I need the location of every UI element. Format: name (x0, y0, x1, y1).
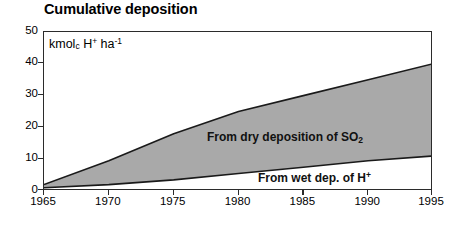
y-tick-label-20: 20 (4, 120, 38, 132)
area-dry-deposition (44, 64, 432, 188)
x-tick-label-1990: 1990 (337, 194, 397, 208)
series-label-wet-deposition: From wet dep. of H+ (258, 170, 371, 185)
x-tick-label-1980: 1980 (208, 194, 268, 208)
x-tick-label-1970: 1970 (78, 194, 138, 208)
y-tick-label-10: 10 (4, 152, 38, 164)
unit-mid-2: ha (97, 37, 114, 51)
unit-prefix: kmol (49, 37, 75, 51)
plot-svg (44, 32, 432, 190)
chart-figure: Cumulative deposition 50 40 30 20 10 0 k… (0, 0, 458, 226)
x-tick-label-1985: 1985 (272, 194, 332, 208)
y-axis: 50 40 30 20 10 0 (0, 0, 38, 226)
unit-sup-minus-one: -1 (115, 36, 123, 46)
y-tick-label-50: 50 (4, 25, 38, 37)
series-label-wet-superscript: + (366, 170, 371, 180)
y-tick-label-40: 40 (4, 56, 38, 68)
series-label-dry-subscript: 2 (358, 135, 363, 145)
chart-title: Cumulative deposition (44, 1, 197, 17)
y-axis-unit-label: kmolc H+ ha-1 (49, 34, 122, 53)
x-tick-label-1965: 1965 (13, 194, 73, 208)
unit-mid: H (80, 37, 93, 51)
x-tick-label-1995: 1995 (401, 194, 458, 208)
series-label-dry-text: From dry deposition of SO (207, 130, 358, 144)
y-tick-label-30: 30 (4, 88, 38, 100)
plot-area (43, 31, 432, 190)
x-axis: 1965 1970 1975 1980 1985 1990 1995 (0, 194, 458, 218)
series-label-wet-text: From wet dep. of H (258, 171, 366, 185)
series-label-dry-deposition: From dry deposition of SO2 (207, 130, 363, 145)
x-tick-label-1975: 1975 (143, 194, 203, 208)
